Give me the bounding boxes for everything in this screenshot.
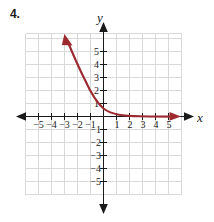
x-tick-label: 1 xyxy=(115,119,120,130)
graph-figure: 4. xyxy=(0,0,214,222)
x-tick-label: −4 xyxy=(46,119,57,130)
x-axis-label: x xyxy=(197,110,203,126)
y-tick-label: −3 xyxy=(90,150,101,161)
x-tick-label: −5 xyxy=(33,119,44,130)
x-tick-label: 5 xyxy=(167,119,172,130)
curve-arrow-end xyxy=(170,112,182,121)
coordinate-plane: −5 −4 −3 −2 −1 1 2 3 4 5 5 4 3 2 1 −1 −2… xyxy=(0,0,214,222)
curve-arrow-start xyxy=(62,34,73,46)
x-tick-label: −3 xyxy=(59,119,70,130)
x-tick-label: 4 xyxy=(154,119,159,130)
y-tick-label: −1 xyxy=(90,124,101,135)
y-tick-label: −2 xyxy=(90,137,101,148)
x-tick-label: 2 xyxy=(128,119,133,130)
y-axis-label: y xyxy=(97,10,103,26)
y-tick-label: −4 xyxy=(90,163,101,174)
y-tick-label: −5 xyxy=(90,176,101,187)
y-tick-label: 2 xyxy=(94,85,99,96)
x-tick-label: −2 xyxy=(72,119,83,130)
x-tick-label: 3 xyxy=(141,119,146,130)
y-tick-label: 4 xyxy=(94,59,99,70)
y-tick-label: 5 xyxy=(94,46,99,57)
y-tick-label: 3 xyxy=(94,72,99,83)
x-axis-tick-labels: −5 −4 −3 −2 −1 1 2 3 4 5 xyxy=(33,119,171,130)
